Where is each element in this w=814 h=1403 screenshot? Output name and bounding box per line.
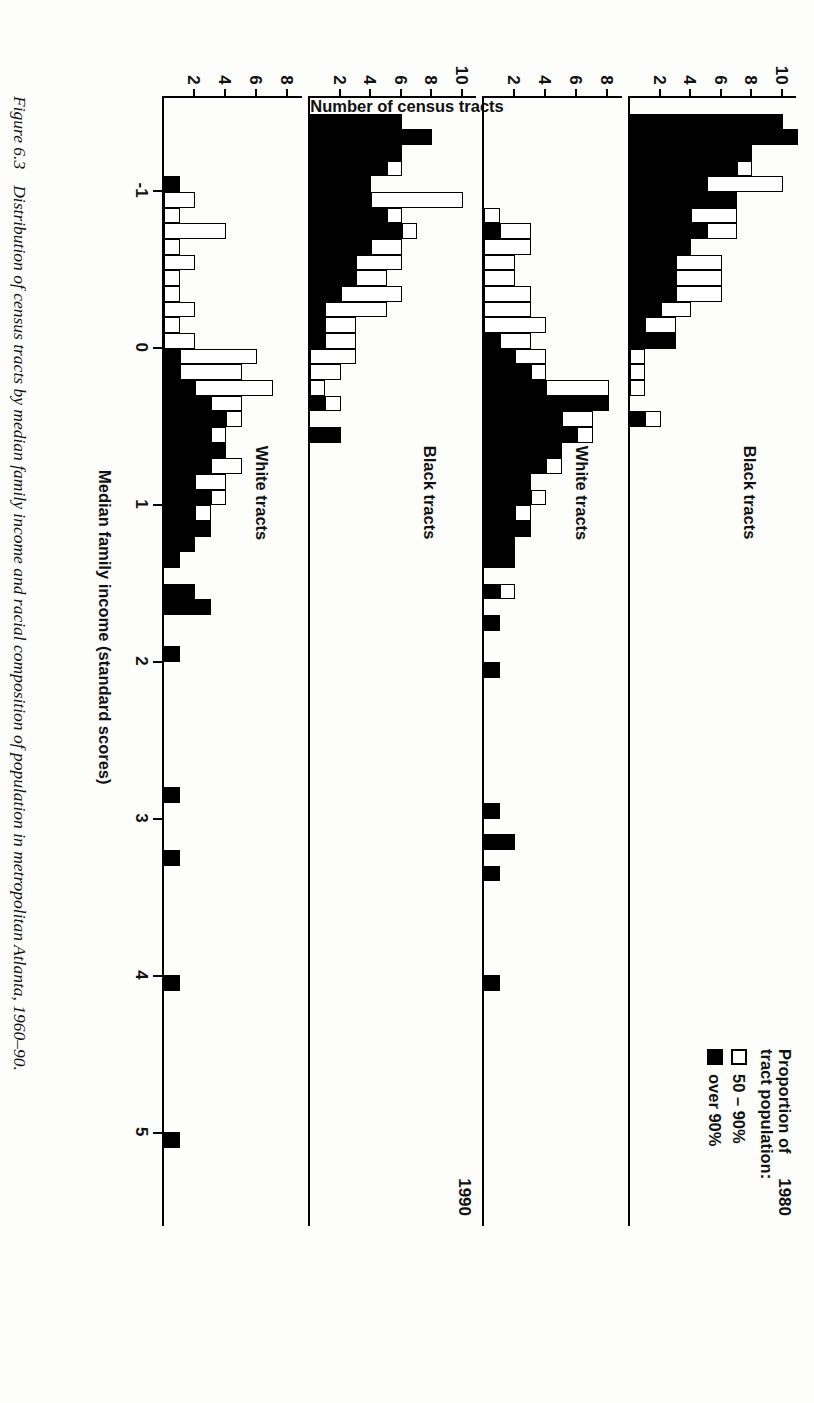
bar-segment-50-90 bbox=[325, 396, 340, 412]
histogram-bar bbox=[310, 239, 402, 255]
bar-segment-over-90 bbox=[484, 505, 515, 521]
histogram-bar bbox=[484, 866, 500, 882]
histogram-bar bbox=[484, 411, 593, 427]
y-axis-tick bbox=[575, 89, 577, 98]
y-axis-tick-label: 2 bbox=[329, 75, 349, 85]
bar-segment-50-90 bbox=[676, 270, 722, 286]
bar-segment-over-90 bbox=[310, 396, 325, 412]
bar-segment-50-90 bbox=[356, 270, 387, 286]
y-axis-tick-label: 10 bbox=[451, 66, 471, 85]
bar-segment-over-90 bbox=[484, 537, 515, 553]
histogram-bar bbox=[310, 302, 386, 318]
y-axis-tick-label: 6 bbox=[390, 75, 410, 85]
bar-segment-over-90 bbox=[310, 208, 386, 224]
y-axis-tick-label: 6 bbox=[710, 75, 730, 85]
bar-segment-50-90 bbox=[325, 333, 356, 349]
bar-segment-50-90 bbox=[484, 270, 515, 286]
histogram-bar bbox=[164, 239, 180, 255]
y-axis-tick bbox=[339, 89, 341, 98]
bar-segment-50-90 bbox=[531, 490, 547, 506]
legend-label-over-90: over 90% bbox=[705, 1074, 724, 1146]
legend-item-50-90: 50 – 90% bbox=[729, 1049, 748, 1299]
histogram-bar bbox=[484, 803, 500, 819]
x-axis-tick-label: 0 bbox=[131, 342, 151, 351]
bar-segment-over-90 bbox=[310, 176, 371, 192]
bar-segment-over-90 bbox=[310, 192, 371, 208]
bar-segment-over-90 bbox=[164, 396, 211, 412]
bar-segment-over-90 bbox=[164, 474, 195, 490]
histogram-bar bbox=[630, 302, 691, 318]
bar-segment-over-90 bbox=[630, 223, 706, 239]
y-axis-tick bbox=[369, 89, 371, 98]
histogram-bar bbox=[164, 349, 257, 365]
bar-segment-50-90 bbox=[707, 176, 783, 192]
bar-segment-over-90 bbox=[310, 286, 341, 302]
histogram-bar bbox=[484, 490, 546, 506]
histogram-bar bbox=[164, 302, 195, 318]
x-axis-tick bbox=[153, 975, 162, 977]
bar-segment-over-90 bbox=[164, 349, 180, 365]
bar-segment-over-90 bbox=[484, 396, 608, 412]
bar-segment-50-90 bbox=[630, 380, 645, 396]
x-axis-tick-label: 3 bbox=[131, 813, 151, 822]
bar-segment-50-90 bbox=[484, 208, 500, 224]
bar-segment-over-90 bbox=[310, 145, 402, 161]
bar-segment-50-90 bbox=[226, 411, 242, 427]
legend-title: Proportion of tract population: bbox=[757, 1049, 794, 1299]
plot-area: 246810Black tracts1990 bbox=[308, 96, 476, 1226]
histogram-bar bbox=[484, 474, 531, 490]
y-axis-tick-label: 4 bbox=[359, 75, 379, 85]
histogram-bar bbox=[310, 286, 402, 302]
histogram-bar bbox=[630, 223, 737, 239]
bar-segment-50-90 bbox=[676, 255, 722, 271]
y-axis-tick bbox=[400, 89, 402, 98]
histogram-bar bbox=[484, 396, 608, 412]
bar-segment-50-90 bbox=[500, 584, 516, 600]
histogram-bar bbox=[164, 208, 180, 224]
bar-segment-over-90 bbox=[164, 364, 180, 380]
bar-segment-50-90 bbox=[211, 458, 242, 474]
y-axis-tick-label: 2 bbox=[503, 75, 523, 85]
histogram-bar bbox=[310, 114, 402, 130]
histogram-bar bbox=[164, 223, 226, 239]
histogram-bar bbox=[630, 364, 645, 380]
histogram-bar bbox=[484, 333, 531, 349]
x-axis-tick-label: 2 bbox=[131, 656, 151, 665]
bar-segment-over-90 bbox=[310, 333, 325, 349]
bar-segment-50-90 bbox=[578, 427, 594, 443]
bar-segment-50-90 bbox=[164, 192, 195, 208]
histogram-bar bbox=[310, 380, 325, 396]
histogram-bar bbox=[630, 129, 798, 145]
bar-segment-50-90 bbox=[356, 255, 402, 271]
x-axis-tick bbox=[153, 661, 162, 663]
bar-segment-50-90 bbox=[310, 364, 341, 380]
histogram-bar bbox=[484, 286, 531, 302]
bar-segment-over-90 bbox=[310, 427, 341, 443]
bar-segment-over-90 bbox=[630, 317, 645, 333]
bar-segment-over-90 bbox=[630, 114, 783, 130]
y-axis-tick bbox=[606, 89, 608, 98]
bar-segment-over-90 bbox=[310, 114, 402, 130]
histogram-bar bbox=[164, 333, 195, 349]
bar-segment-over-90 bbox=[484, 834, 515, 850]
x-axis-tick-label: 1 bbox=[131, 499, 151, 508]
bar-segment-over-90 bbox=[484, 333, 500, 349]
histogram-bar bbox=[630, 411, 661, 427]
bar-segment-over-90 bbox=[164, 552, 180, 568]
bar-segment-over-90 bbox=[310, 317, 325, 333]
bar-segment-50-90 bbox=[515, 505, 531, 521]
y-axis-tick bbox=[430, 89, 432, 98]
y-axis-tick-label: 8 bbox=[740, 75, 760, 85]
y-axis-tick bbox=[750, 89, 752, 98]
histogram-bar bbox=[484, 584, 515, 600]
y-axis-tick-label: 6 bbox=[245, 75, 265, 85]
figure-caption: Figure 6.3Distribution of census tracts … bbox=[8, 96, 31, 1363]
y-axis-tick-label: 8 bbox=[276, 75, 296, 85]
bar-segment-50-90 bbox=[661, 302, 692, 318]
y-axis-tick-label: 8 bbox=[420, 75, 440, 85]
histogram-bar bbox=[164, 474, 226, 490]
legend-item-over-90: over 90% bbox=[705, 1049, 724, 1299]
bar-segment-50-90 bbox=[164, 317, 180, 333]
bar-segment-over-90 bbox=[484, 458, 546, 474]
bar-segment-50-90 bbox=[310, 349, 356, 365]
